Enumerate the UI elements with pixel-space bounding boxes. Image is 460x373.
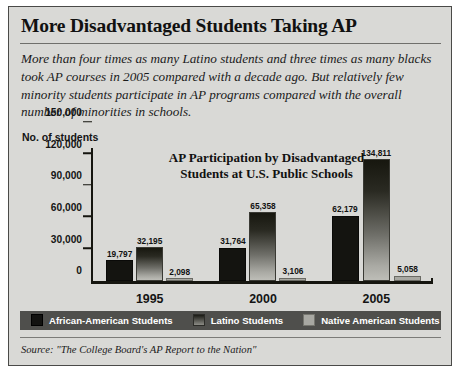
legend-swatch-icon: [303, 314, 315, 326]
x-axis-tick-label: 2005: [320, 292, 433, 306]
bar-slot: 65,358: [249, 148, 276, 282]
bar-group: 62,179134,8115,058: [320, 148, 433, 282]
bar[interactable]: [166, 278, 193, 281]
bar-groups: 19,79732,1952,09831,76465,3583,10662,179…: [93, 148, 433, 282]
bar-slot: 134,811: [362, 148, 392, 282]
bar-slot: 5,058: [394, 148, 421, 282]
bar[interactable]: [136, 247, 163, 281]
bar-slot: 32,195: [136, 148, 163, 282]
chart-legend: African-American StudentsLatino Students…: [20, 311, 441, 330]
infographic-panel: More Disadvantaged Students Taking AP Mo…: [8, 6, 452, 366]
legend-swatch-icon: [193, 314, 205, 326]
bar-slot: 3,106: [279, 148, 306, 282]
legend-item[interactable]: Native American Students: [303, 314, 440, 326]
x-axis-line: [91, 281, 433, 284]
bar-slot: 2,098: [166, 148, 193, 282]
y-axis-tick-mark: [83, 121, 92, 123]
bar-group: 19,79732,1952,098: [93, 148, 206, 282]
y-axis-tick-label: 150,000: [24, 107, 82, 118]
legend-label: Native American Students: [321, 315, 440, 326]
bar-value-label: 3,106: [283, 266, 304, 276]
y-axis-tick-label: 0: [24, 265, 82, 276]
legend-swatch-icon: [31, 314, 43, 326]
y-axis-tick-label: 90,000: [24, 170, 82, 181]
bar-value-label: 62,179: [332, 204, 357, 214]
page-title: More Disadvantaged Students Taking AP: [9, 7, 451, 36]
bar[interactable]: [279, 278, 306, 281]
legend-item[interactable]: Latino Students: [193, 314, 283, 326]
bar[interactable]: [249, 212, 276, 281]
chart-area: No. of students AP Participation by Disa…: [20, 131, 441, 306]
bar[interactable]: [394, 276, 421, 281]
legend-item[interactable]: African-American Students: [31, 314, 173, 326]
y-axis-tick-label: 30,000: [24, 233, 82, 244]
bar-slot: 31,764: [219, 148, 246, 282]
bar-value-label: 65,358: [250, 201, 275, 211]
bar-value-label: 19,797: [107, 249, 132, 259]
y-axis-tick-label: 60,000: [24, 201, 82, 212]
x-axis-labels: 199520002005: [93, 292, 433, 306]
bar[interactable]: [106, 260, 133, 281]
bar-value-label: 32,195: [137, 236, 162, 246]
legend-label: Latino Students: [211, 315, 283, 326]
x-axis-tick-label: 2000: [206, 292, 319, 306]
y-axis-tick-label: 120,000: [24, 138, 82, 149]
bar-slot: 62,179: [332, 148, 359, 282]
bar[interactable]: [219, 248, 246, 281]
bar-value-label: 2,098: [169, 267, 190, 277]
bar-group: 31,76465,3583,106: [206, 148, 319, 282]
bar[interactable]: [332, 216, 359, 281]
chart-plot: AP Participation by Disadvantaged Studen…: [20, 148, 441, 306]
source-note: Source: "The College Board's AP Report t…: [9, 338, 451, 355]
x-axis-tick-label: 1995: [93, 292, 206, 306]
bar-slot: 19,797: [106, 148, 133, 282]
bar-value-label: 31,764: [220, 236, 245, 246]
legend-label: African-American Students: [49, 315, 173, 326]
bar[interactable]: [363, 159, 390, 281]
bar-value-label: 134,811: [362, 148, 392, 158]
bar-value-label: 5,058: [397, 264, 418, 274]
